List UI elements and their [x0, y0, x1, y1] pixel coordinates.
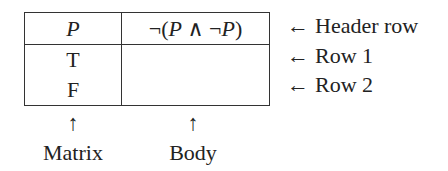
formula: ¬(P ∧ ¬P): [149, 18, 242, 40]
body-label: Body: [169, 142, 217, 164]
header-row-annotation: ← Header row: [287, 15, 418, 37]
row2-body-cell: [122, 74, 269, 105]
row2-matrix-cell: F: [25, 74, 121, 105]
row2-annotation: ← Row 2: [287, 74, 373, 96]
left-arrow-icon: ←: [287, 74, 315, 96]
row1-label: Row 1: [315, 45, 373, 67]
body-annotation: ↑ Body: [156, 108, 230, 164]
header-matrix-cell: P: [25, 13, 121, 44]
row1-body-cell: [122, 45, 269, 74]
left-arrow-icon: ←: [287, 15, 315, 37]
header-body-cell: ¬(P ∧ ¬P): [122, 13, 269, 44]
row1-matrix-cell: T: [25, 45, 121, 74]
truth-table: P ¬(P ∧ ¬P) T F: [24, 12, 270, 106]
up-arrow-icon: ↑: [68, 108, 79, 138]
left-arrow-icon: ←: [287, 45, 315, 67]
up-arrow-icon: ↑: [188, 108, 199, 138]
matrix-annotation: ↑ Matrix: [32, 108, 114, 164]
header-row-label: Header row: [315, 15, 418, 37]
row2-label: Row 2: [315, 74, 373, 96]
matrix-label: Matrix: [43, 142, 103, 164]
row1-annotation: ← Row 1: [287, 45, 373, 67]
